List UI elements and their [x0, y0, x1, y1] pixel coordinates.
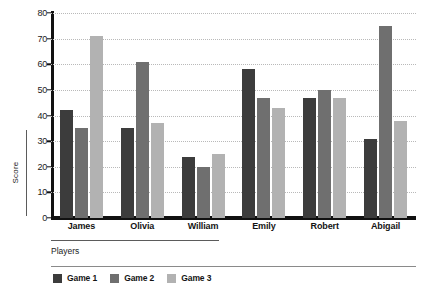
y-axis-label: Score: [11, 145, 20, 201]
x-axis-label: Players: [51, 246, 79, 256]
category-label: Abigail: [355, 221, 416, 231]
bar-chart: Score 01020304050607080 JamesOliviaWilli…: [0, 0, 423, 297]
legend-item[interactable]: Game 2: [110, 273, 154, 283]
y-tick-label: 60: [37, 59, 47, 69]
bar: [272, 108, 285, 218]
bar-group: [112, 13, 173, 218]
y-tick-label: 20: [37, 162, 47, 172]
plot-area: [51, 13, 416, 218]
bar: [182, 157, 195, 219]
category-label: Emily: [233, 221, 294, 231]
bar-group: [294, 13, 355, 218]
y-tick-label: 10: [37, 187, 47, 197]
bar: [333, 98, 346, 218]
legend-item[interactable]: Game 3: [167, 273, 211, 283]
legend-label: Game 1: [67, 273, 97, 283]
legend-label: Game 3: [181, 273, 211, 283]
y-tick-label: 70: [37, 34, 47, 44]
bar: [394, 121, 407, 218]
legend-item[interactable]: Game 1: [53, 273, 97, 283]
legend-swatch-icon: [53, 274, 62, 283]
category-label: James: [51, 221, 112, 231]
legend-swatch-icon: [167, 274, 176, 283]
bar: [212, 154, 225, 218]
bar: [121, 128, 134, 218]
bar: [197, 167, 210, 218]
category-label: William: [173, 221, 234, 231]
y-tick-label: 80: [37, 8, 47, 18]
bar: [90, 36, 103, 218]
legend-swatch-icon: [110, 274, 119, 283]
bar-groups: [51, 13, 416, 218]
x-axis-category-labels: JamesOliviaWilliamEmilyRobertAbigail: [51, 221, 416, 231]
bar-group: [233, 13, 294, 218]
bar: [242, 69, 255, 218]
y-tick-label: 50: [37, 85, 47, 95]
bar: [60, 110, 73, 218]
bar-group: [51, 13, 112, 218]
bar: [136, 62, 149, 218]
x-axis-label-rule: [51, 240, 219, 241]
category-label: Olivia: [112, 221, 173, 231]
bar: [318, 90, 331, 218]
y-tick-label: 30: [37, 136, 47, 146]
y-tick-label: 40: [37, 111, 47, 121]
bar: [151, 123, 164, 218]
bar-group: [355, 13, 416, 218]
legend: Game 1Game 2Game 3: [53, 273, 211, 283]
legend-label: Game 2: [124, 273, 154, 283]
bar: [75, 128, 88, 218]
category-label: Robert: [294, 221, 355, 231]
legend-divider: [51, 266, 416, 267]
bar: [379, 26, 392, 218]
y-axis-ticks: 01020304050607080: [26, 13, 51, 218]
bar: [257, 98, 270, 218]
bar: [303, 98, 316, 218]
bar: [364, 139, 377, 218]
bar-group: [173, 13, 234, 218]
